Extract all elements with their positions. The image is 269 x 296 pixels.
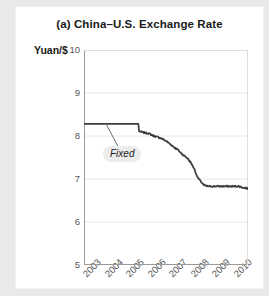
fixed-annotation-label: Fixed [103, 146, 141, 162]
gridlines [84, 50, 248, 222]
figure-background: (a) China–U.S. Exchange Rate Yuan/$ 5678… [0, 0, 269, 296]
